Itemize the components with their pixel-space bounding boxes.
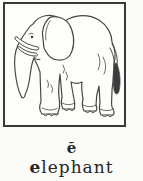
word-initial-letter: e — [29, 157, 41, 177]
picture-frame — [3, 2, 126, 127]
word-remainder: lephant — [41, 157, 113, 177]
word-label: elephant — [0, 157, 143, 177]
flashcard: ĕ elephant — [0, 0, 143, 181]
phonetic-symbol: ĕ — [0, 139, 143, 157]
elephant-illustration — [5, 4, 124, 125]
